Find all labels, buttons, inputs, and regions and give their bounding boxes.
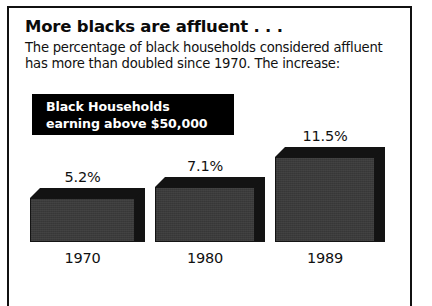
bar-1980-category-label: 1980 (155, 250, 255, 266)
bar-1980 (155, 177, 265, 242)
bar-1970 (30, 188, 145, 242)
bar-1989 (275, 147, 385, 242)
bar-1989-side-face (375, 147, 385, 242)
bar-1989-category-label: 1989 (275, 250, 375, 266)
bar-1980-value-label: 7.1% (155, 158, 255, 174)
bar-1989-front-face (275, 157, 375, 242)
bar-1970-category-label: 1970 (30, 250, 135, 266)
bar-1980-front-face (155, 187, 255, 242)
bar-1980-side-face (255, 177, 265, 242)
bar-1970-value-label: 5.2% (30, 169, 135, 185)
bar-1989-value-label: 11.5% (275, 128, 375, 144)
bar-1970-front-face (30, 198, 135, 242)
